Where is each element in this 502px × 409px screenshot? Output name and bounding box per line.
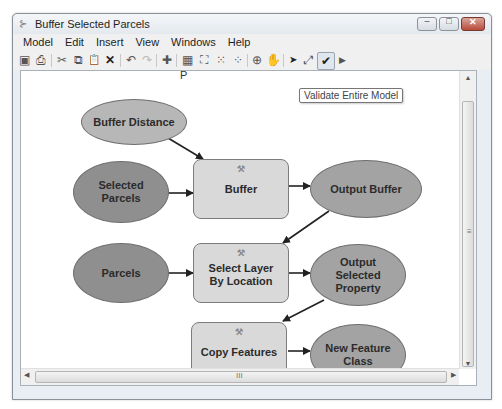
redo-icon[interactable]: ↷ (139, 52, 155, 68)
maximize-icon: □ (440, 16, 458, 26)
fixed-zoom-out-icon[interactable]: ⁘ (230, 52, 246, 68)
undo-icon[interactable]: ↶ (123, 52, 139, 68)
toolbar-separator (283, 54, 284, 67)
toolbar: ▣ ⎙ ✂ ⧉ 📋 ✕ ↶ ↷ ✚ ▦ ⛶ ⁙ ⁘ ⊕ ✋ ➤ ⤢ ✔ ▶ (13, 51, 491, 70)
validate-icon[interactable]: ✔ (317, 52, 335, 70)
node-buffer-tool[interactable]: ⚒ Buffer (193, 159, 289, 219)
toolbar-separator (247, 54, 248, 67)
delete-icon[interactable]: ✕ (102, 52, 118, 68)
validate-tooltip: Validate Entire Model (299, 88, 403, 103)
menu-windows[interactable]: Windows (171, 34, 222, 51)
menu-view[interactable]: View (135, 34, 165, 51)
paste-icon[interactable]: 📋 (86, 52, 102, 68)
copy-icon[interactable]: ⧉ (70, 52, 86, 68)
tool-icon: ⚒ (235, 326, 243, 338)
node-select-layer-by-location-tool[interactable]: ⚒ Select Layer By Location (193, 243, 289, 303)
node-label: Parcels (101, 267, 140, 280)
full-extent-icon[interactable]: ⛶ (196, 52, 212, 68)
node-label: Buffer (225, 183, 257, 196)
add-data-icon[interactable]: ✚ (159, 52, 175, 68)
tool-icon: ⚒ (237, 163, 245, 175)
node-selected-parcels[interactable]: Selected Parcels (73, 161, 169, 223)
auto-layout-icon[interactable]: ▦ (179, 52, 195, 68)
maximize-button[interactable]: □ (439, 17, 459, 31)
model-builder-window: ⊱ Buffer Selected Parcels – □ ✕ Model Ed… (12, 13, 492, 400)
scroll-right-icon[interactable]: ▶ (451, 371, 456, 379)
node-output-buffer[interactable]: Output Buffer (310, 160, 422, 218)
menu-edit[interactable]: Edit (65, 34, 90, 51)
grip-icon: III (236, 371, 243, 380)
node-label: Buffer Distance (93, 116, 174, 129)
toolbar-separator (176, 54, 177, 67)
menu-help[interactable]: Help (228, 34, 257, 51)
close-icon: ✕ (462, 17, 484, 27)
close-button[interactable]: ✕ (461, 17, 485, 31)
node-label: New Feature Class (325, 342, 391, 368)
cut-icon[interactable]: ✂ (54, 52, 70, 68)
node-label: Output Buffer (330, 183, 401, 196)
fixed-zoom-in-icon[interactable]: ⁙ (213, 52, 229, 68)
node-label: Copy Features (201, 346, 277, 359)
menu-insert[interactable]: Insert (96, 34, 130, 51)
select-icon[interactable]: ➤ (285, 52, 301, 68)
model-builder-icon: ⊱ (19, 18, 33, 30)
node-parcels[interactable]: Parcels (73, 243, 169, 303)
minimize-button[interactable]: – (417, 17, 437, 31)
run-icon[interactable]: ▶ (334, 52, 350, 68)
print-icon[interactable]: ⎙ (33, 52, 49, 68)
window-title: Buffer Selected Parcels (35, 18, 150, 30)
horizontal-scrollbar[interactable]: ◀ III ▶ (21, 368, 459, 385)
menu-bar: Model Edit Insert View Windows Help (13, 34, 491, 51)
toolbar-separator (156, 54, 157, 67)
toolbar-separator (51, 54, 52, 67)
node-label: Output Selected Property (326, 256, 390, 295)
minimize-icon: – (418, 16, 436, 26)
horizontal-scroll-thumb[interactable]: III (35, 371, 447, 383)
scroll-up-icon[interactable]: ▲ (460, 74, 476, 81)
node-label: Selected Parcels (91, 179, 151, 205)
pan-icon[interactable]: ✋ (265, 52, 281, 68)
node-output-selected-property[interactable]: Output Selected Property (310, 244, 406, 306)
model-canvas[interactable]: P Buffer Distance Selected Parce (20, 70, 477, 386)
tool-icon: ⚒ (237, 247, 245, 259)
save-icon[interactable]: ▣ (16, 52, 32, 68)
grip-icon: ≡ (467, 227, 472, 236)
toolbar-separator (120, 54, 121, 67)
vertical-scrollbar[interactable]: ▲ ≡ ▼ (459, 71, 476, 369)
zoom-in-icon[interactable]: ⊕ (249, 52, 265, 68)
node-buffer-distance[interactable]: Buffer Distance (81, 99, 187, 145)
vertical-scroll-thumb[interactable]: ≡ (462, 101, 474, 367)
connect-icon[interactable]: ⤢ (301, 52, 317, 68)
title-bar[interactable]: ⊱ Buffer Selected Parcels – □ ✕ (13, 14, 491, 34)
scroll-down-icon[interactable]: ▼ (460, 360, 476, 367)
scroll-left-icon[interactable]: ◀ (24, 371, 29, 379)
menu-model[interactable]: Model (23, 34, 59, 51)
node-label: Select Layer By Location (201, 258, 281, 288)
